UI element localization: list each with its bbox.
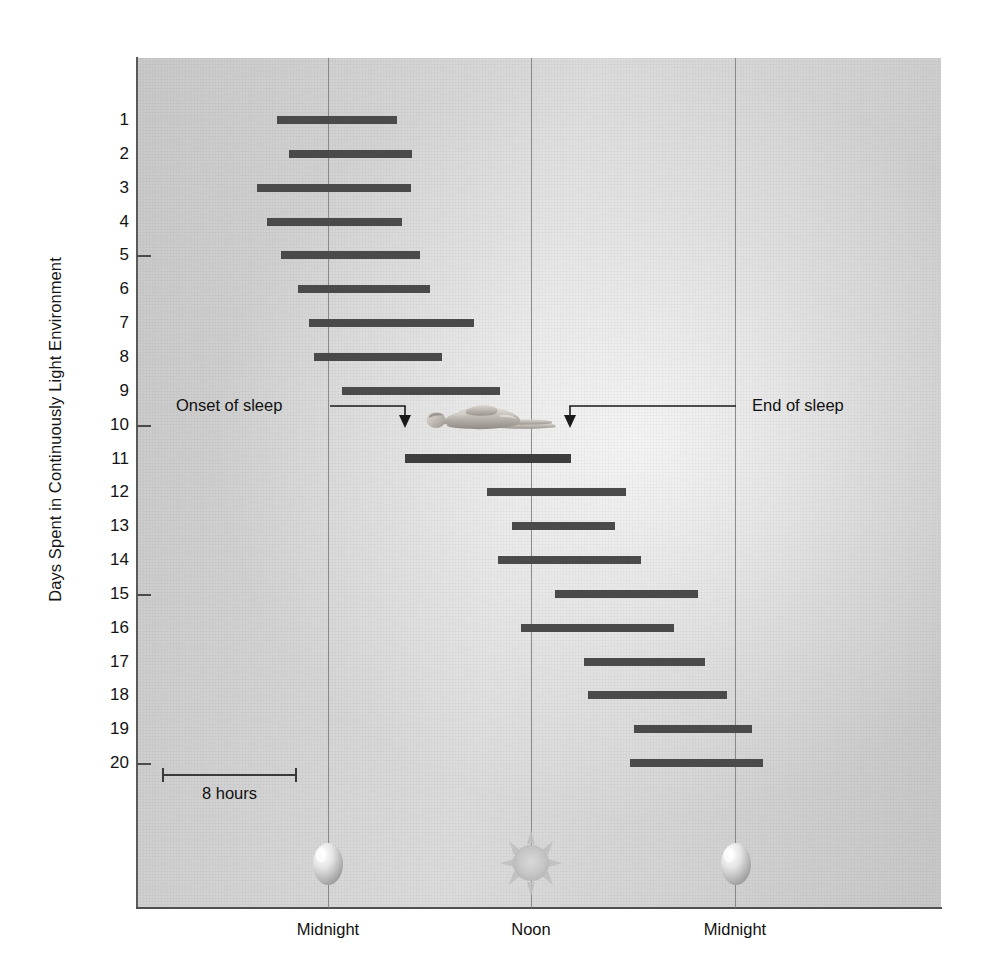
sleep-bar-day-18: [588, 691, 727, 699]
sleep-bar-day-8: [314, 353, 442, 361]
scale-bar-cap-left: [162, 768, 164, 782]
y-axis-label-day-13: 13: [89, 517, 129, 534]
y-axis-label-day-4: 4: [89, 213, 129, 230]
y-axis-line: [136, 57, 138, 909]
sleep-bar-day-4: [267, 218, 402, 226]
moon-icon-right: [714, 836, 758, 892]
y-axis-label-day-3: 3: [89, 179, 129, 196]
y-axis-label-day-2: 2: [89, 145, 129, 162]
y-axis-label-day-10: 10: [89, 416, 129, 433]
sleep-bar-day-12: [487, 488, 625, 496]
y-axis-label-day-19: 19: [89, 720, 129, 737]
y-axis-title: Days Spent in Continuously Light Environ…: [46, 195, 65, 665]
y-axis-label-day-12: 12: [89, 483, 129, 500]
sleep-bar-day-2: [289, 150, 412, 158]
y-axis-label-day-17: 17: [89, 653, 129, 670]
sleep-bar-day-7: [309, 319, 474, 327]
x-label-midnight-left: Midnight: [297, 920, 359, 939]
y-axis-label-day-11: 11: [89, 450, 129, 467]
sun-icon: [500, 830, 562, 896]
y-axis-label-day-7: 7: [89, 314, 129, 331]
sleep-bar-day-16: [521, 624, 674, 632]
y-axis-label-day-6: 6: [89, 280, 129, 297]
y-axis-label-day-9: 9: [89, 382, 129, 399]
sleep-bar-day-14: [498, 556, 641, 564]
y-axis-label-day-16: 16: [89, 619, 129, 636]
sleep-bar-day-3: [257, 184, 411, 192]
x-label-midnight-right: Midnight: [704, 920, 766, 939]
y-axis-tick-day-20: [137, 763, 151, 765]
y-axis-label-day-5: 5: [89, 246, 129, 263]
sleep-bar-day-9: [342, 387, 500, 395]
y-axis-label-day-1: 1: [89, 111, 129, 128]
sleep-bar-day-17: [584, 658, 705, 666]
sleep-bar-day-15: [555, 590, 698, 598]
y-axis-label-day-18: 18: [89, 686, 129, 703]
sleep-bar-day-19: [634, 725, 752, 733]
sleep-bar-day-6: [298, 285, 430, 293]
sleep-bar-day-1: [277, 116, 397, 124]
scale-bar: 8 hours: [162, 766, 297, 810]
x-axis-line: [136, 907, 942, 909]
sleep-bar-day-10: [405, 454, 570, 463]
end-of-sleep-label: End of sleep: [752, 396, 844, 415]
sleep-bar-day-5: [281, 251, 420, 259]
y-axis-label-day-8: 8: [89, 348, 129, 365]
gridline-noon: [531, 58, 532, 908]
y-axis-tick-day-10: [137, 425, 151, 427]
scale-bar-cap-right: [295, 768, 297, 782]
sleep-bar-day-20: [630, 759, 763, 767]
y-axis-tick-day-15: [137, 594, 151, 596]
scale-bar-label: 8 hours: [162, 784, 297, 803]
y-axis-label-day-14: 14: [89, 551, 129, 568]
y-axis-label-day-20: 20: [89, 754, 129, 771]
y-axis-label-day-15: 15: [89, 585, 129, 602]
sleep-bar-day-13: [512, 522, 614, 530]
x-label-noon: Noon: [511, 920, 550, 939]
y-axis-tick-day-5: [137, 255, 151, 257]
circadian-rhythm-chart: Days Spent in Continuously Light Environ…: [0, 0, 981, 967]
gridline-midnight-right: [735, 58, 736, 908]
moon-icon: [306, 836, 350, 892]
scale-bar-line: [162, 774, 297, 776]
onset-of-sleep-label: Onset of sleep: [176, 396, 282, 415]
